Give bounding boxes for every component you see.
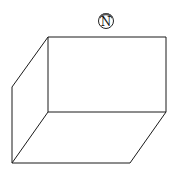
back-face [48, 37, 166, 112]
north-compass-icon: N [99, 14, 114, 29]
left-face [12, 37, 48, 163]
north-label: N [101, 15, 112, 29]
box-diagram: N [0, 0, 180, 170]
bottom-face [12, 112, 166, 163]
